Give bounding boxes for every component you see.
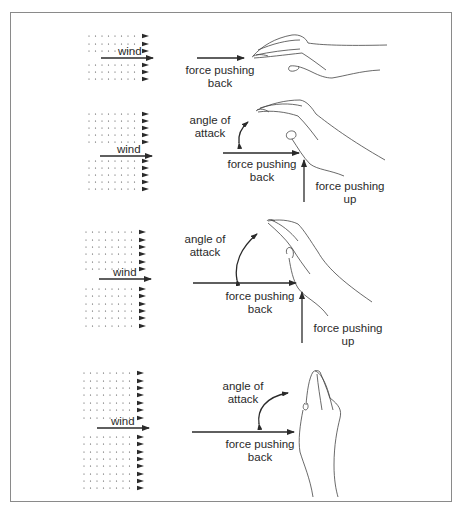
angle-of-attack-label: angle of attack (181, 233, 229, 259)
force-back-label: force pushing back (218, 290, 302, 316)
wind-label: wind (113, 266, 137, 278)
force-back-label-line2: back (220, 171, 304, 184)
wind-label: wind (118, 45, 142, 57)
hand-flat-icon (252, 35, 387, 78)
force-back-label: force pushing back (175, 64, 265, 90)
angle-label-line2: attack (219, 393, 267, 406)
force-back-label-line1: force pushing (218, 438, 302, 451)
panel-4 (83, 371, 340, 498)
wind-field-icon (83, 371, 144, 490)
angle-label-line1: angle of (181, 233, 229, 246)
force-up-label-line1: force pushing (306, 322, 390, 335)
force-back-label-line1: force pushing (175, 64, 265, 77)
angle-of-attack-arc-icon (239, 122, 248, 143)
force-back-label-line2: back (218, 451, 302, 464)
force-back-label: force pushing back (220, 158, 304, 184)
hand-vertical-icon (299, 371, 340, 498)
force-up-label-line1: force pushing (308, 180, 392, 193)
angle-of-attack-arc-icon (236, 234, 257, 280)
force-back-label-line1: force pushing (218, 290, 302, 303)
force-up-label: force pushing up (306, 322, 390, 348)
angle-label-line1: angle of (219, 380, 267, 393)
angle-of-attack-label: angle of attack (219, 380, 267, 406)
angle-label-line2: attack (181, 246, 229, 259)
force-back-label-line2: back (175, 77, 265, 90)
force-back-label-line1: force pushing (220, 158, 304, 171)
force-up-label: force pushing up (308, 180, 392, 206)
angle-of-attack-label: angle of attack (186, 114, 234, 140)
force-back-label-line2: back (218, 303, 302, 316)
wind-label: wind (117, 143, 141, 155)
wind-label: wind (111, 415, 135, 427)
angle-label-line2: attack (186, 127, 234, 140)
force-up-label-line2: up (306, 335, 390, 348)
force-up-label-line2: up (308, 193, 392, 206)
angle-label-line1: angle of (186, 114, 234, 127)
force-back-label: force pushing back (218, 438, 302, 464)
